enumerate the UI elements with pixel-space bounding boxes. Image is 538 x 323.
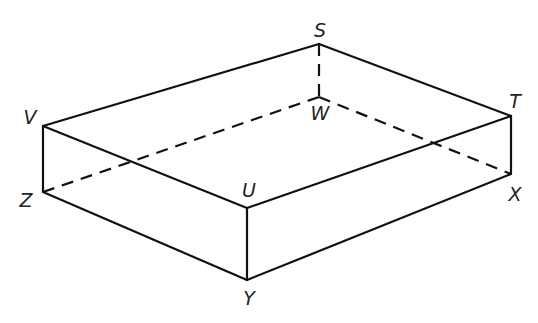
vertex-label-y: Y	[243, 289, 255, 308]
edge-UT	[247, 116, 511, 208]
vertex-label-z: Z	[19, 191, 32, 210]
edge-WZ	[43, 97, 319, 192]
vertex-label-t: T	[509, 92, 521, 111]
edge-ST	[319, 44, 511, 116]
edge-VU	[43, 126, 247, 208]
vertex-label-v: V	[24, 108, 37, 127]
cuboid-figure	[0, 0, 538, 323]
edge-WX	[319, 97, 511, 174]
edge-YX	[247, 174, 511, 280]
vertex-label-x: X	[508, 185, 521, 204]
vertex-label-u: U	[242, 181, 256, 200]
vertex-label-s: S	[314, 21, 326, 40]
edge-ZY	[43, 192, 247, 280]
cuboid-diagram: S T U V W X Y Z	[0, 0, 538, 323]
vertex-label-w: W	[311, 104, 330, 123]
edge-SV	[43, 44, 319, 126]
